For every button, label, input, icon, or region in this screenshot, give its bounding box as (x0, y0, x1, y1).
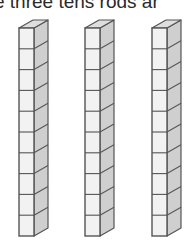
tens-rod-1 (19, 20, 48, 236)
tens-rod-3 (152, 20, 181, 236)
tens-rods-diagram (0, 0, 189, 252)
tens-rod-2 (85, 20, 114, 236)
